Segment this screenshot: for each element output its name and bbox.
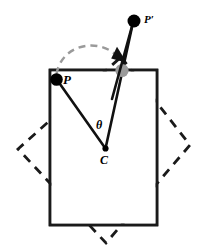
label-point-p-prime: P′	[144, 14, 154, 25]
original-point-marker	[50, 73, 63, 86]
label-rotation-angle-theta: θ	[96, 119, 102, 131]
rotation-diagram-figure: P P′ C θ	[0, 0, 207, 252]
center-point-marker	[102, 145, 108, 151]
label-point-p: P	[63, 73, 71, 86]
label-center-point-c: C	[100, 154, 108, 166]
diagram-canvas	[0, 0, 207, 252]
rotated-point-marker	[128, 15, 141, 28]
